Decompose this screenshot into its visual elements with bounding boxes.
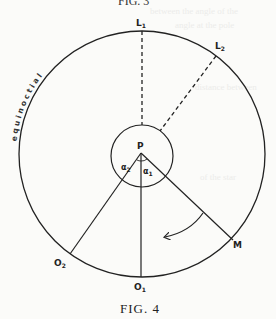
- label-O2: O2: [54, 258, 66, 269]
- label-M: M: [233, 240, 242, 250]
- label-L2: L2: [215, 41, 225, 52]
- figure-4-diagram: between the angle of the angle at the po…: [0, 0, 276, 319]
- label-O1: O1: [134, 282, 146, 293]
- equinoctial-label: equinoctial: [9, 70, 45, 142]
- figure-caption: FIG. 4: [120, 301, 160, 316]
- angle-arc-a1: [141, 159, 147, 161]
- polar-circle: [111, 125, 173, 187]
- svg-text:between the angle of the: between the angle of the: [150, 6, 238, 16]
- bleed-through-text: between the angle of the angle at the po…: [150, 6, 257, 182]
- rotation-arrow-icon: [165, 213, 203, 237]
- svg-text:angle at the pole: angle at the pole: [175, 20, 234, 30]
- label-alpha2: α2: [121, 163, 131, 173]
- svg-text:of the star: of the star: [200, 172, 236, 182]
- label-P: P: [137, 141, 144, 151]
- line-L2: [160, 56, 216, 131]
- top-caption: FIG. 3: [118, 0, 149, 8]
- label-L1: L1: [136, 18, 146, 29]
- line-PM: [141, 153, 233, 240]
- label-alpha1: α1: [143, 167, 153, 177]
